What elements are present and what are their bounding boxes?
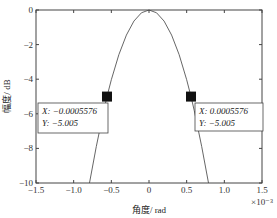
x-axis-ticks: −1.5−1.0−0.500.51.01.5 (28, 10, 268, 195)
svg-text:Y: −5.005: Y: −5.005 (42, 118, 78, 128)
data-marker (186, 92, 196, 102)
plot-frame (36, 10, 262, 183)
x-tick-label: 1.0 (219, 185, 231, 195)
y-axis-ticks: 0−2−4−6−8−10 (19, 5, 262, 188)
y-axis-label: 幅度/ dB (1, 79, 12, 112)
data-tip: X: −0.0005576Y: −5.005 (38, 92, 112, 133)
x-tick-label: 0 (147, 185, 152, 195)
x-tick-label: −1.0 (66, 185, 83, 195)
x-tick-label: −0.5 (103, 185, 120, 195)
svg-text:X: 0.0005576: X: 0.0005576 (198, 106, 248, 116)
y-tick-label: 0 (29, 5, 34, 15)
x-axis-label: 角度/ rad (132, 204, 167, 215)
y-tick-label: −10 (19, 178, 34, 188)
data-tip: X: 0.0005576Y: −5.005 (186, 92, 263, 131)
chart: −1.5−1.0−0.500.51.01.5 0−2−4−6−8−10 X: −… (0, 0, 277, 218)
data-tips: X: −0.0005576Y: −5.005X: 0.0005576Y: −5.… (38, 92, 263, 133)
y-tick-label: −4 (23, 74, 33, 84)
y-tick-label: −2 (23, 40, 33, 50)
x-tick-label: 0.5 (181, 185, 193, 195)
x-exponent-label: ×10⁻³ (251, 197, 273, 207)
svg-text:X: −0.0005576: X: −0.0005576 (41, 106, 98, 116)
y-tick-label: −6 (23, 109, 33, 119)
y-tick-label: −8 (23, 143, 33, 153)
x-tick-label: 1.5 (256, 185, 268, 195)
data-marker (102, 92, 112, 102)
svg-text:Y: −5.005: Y: −5.005 (199, 118, 235, 128)
